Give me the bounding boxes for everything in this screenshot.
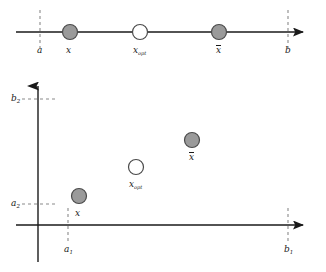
- math-diagram-figure: a x xopt x b b2 a2 a1 b1 x xopt x: [0, 0, 326, 272]
- label-tick-b2: b2: [11, 94, 20, 103]
- label-bottom-x-opt-subscript: opt: [134, 184, 142, 190]
- label-tick-a1-subscript: 1: [69, 249, 73, 255]
- label-bottom-x-opt: xopt: [129, 180, 142, 189]
- label-tick-b1-subscript: 1: [290, 249, 294, 255]
- top-panel-group: [16, 10, 303, 48]
- bottom-marker-x-bar: [185, 133, 200, 148]
- top-marker-x-opt: [133, 25, 148, 40]
- label-top-x-bar: x: [216, 46, 221, 55]
- label-tick-a2: a2: [11, 199, 20, 208]
- label-bound-b: b: [285, 46, 291, 55]
- bottom-marker-x-lower: [72, 189, 87, 204]
- top-marker-x-lower: [63, 25, 78, 40]
- label-bottom-x-lower: x: [75, 209, 80, 218]
- label-tick-b1: b1: [284, 245, 293, 254]
- label-tick-b2-subscript: 2: [17, 98, 21, 104]
- label-tick-a2-subscript: 2: [16, 203, 20, 209]
- diagram-canvas: [0, 0, 326, 272]
- overline-bar: [216, 45, 221, 46]
- label-top-x-opt-subscript: opt: [138, 50, 146, 56]
- label-tick-a1: a1: [64, 245, 73, 254]
- label-bottom-x-bar: x: [189, 153, 194, 162]
- overline-bar: [189, 152, 194, 153]
- bottom-marker-x-opt: [129, 160, 144, 175]
- top-marker-x-bar: [212, 25, 227, 40]
- label-bound-a: a: [37, 46, 42, 55]
- bottom-panel-group: [16, 86, 303, 262]
- label-top-x-opt: xopt: [133, 46, 146, 55]
- label-top-x-lower: x: [66, 46, 71, 55]
